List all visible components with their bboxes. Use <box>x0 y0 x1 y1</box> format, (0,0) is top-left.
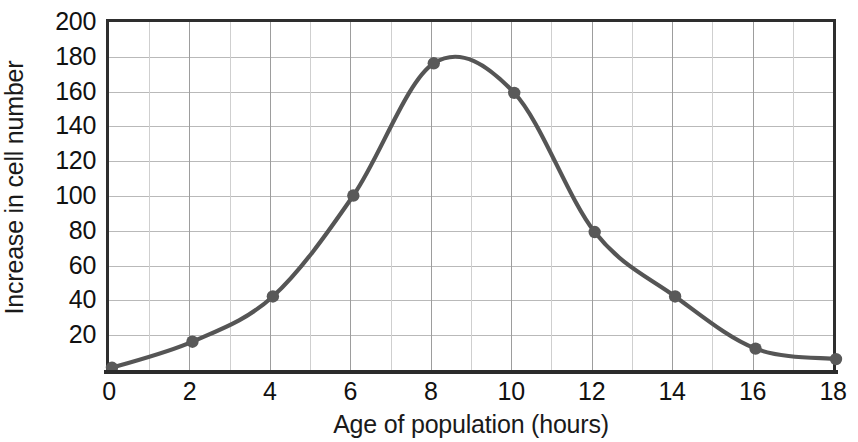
data-point-marker <box>669 290 681 302</box>
data-series-line <box>109 22 833 370</box>
x-axis-title: Age of population (hours) <box>106 410 836 439</box>
chart-figure: Increase in cell number 2040608010012014… <box>0 0 858 442</box>
y-axis-title: Increase in cell number <box>0 0 30 375</box>
x-axis-tick-label: 10 <box>498 376 525 406</box>
x-axis-tick-label: 14 <box>659 376 686 406</box>
x-axis-tick-label: 6 <box>344 376 358 406</box>
x-axis-tick-label: 8 <box>424 376 438 406</box>
series-line <box>112 57 836 368</box>
y-axis-tick-label: 200 <box>55 9 96 34</box>
x-axis-tick-label: 0 <box>102 376 116 406</box>
y-axis-tick-label: 100 <box>55 183 96 208</box>
y-axis-tick-label: 40 <box>69 287 96 312</box>
data-point-marker <box>267 290 279 302</box>
data-point-marker <box>588 226 600 238</box>
data-point-marker <box>508 87 520 99</box>
x-axis-baseline <box>104 370 838 374</box>
x-axis-tick-label: 18 <box>819 376 846 406</box>
data-point-marker <box>186 335 198 347</box>
y-axis-tick-label: 60 <box>69 253 96 278</box>
y-axis-tick-label: 80 <box>69 218 96 243</box>
data-point-marker <box>830 353 842 365</box>
y-axis-tick-label: 180 <box>55 44 96 69</box>
plot-area <box>106 19 836 373</box>
data-point-marker <box>749 342 761 354</box>
y-axis-title-text: Increase in cell number <box>1 61 30 315</box>
y-axis-tick-label: 120 <box>55 148 96 173</box>
y-axis-tick-label: 160 <box>55 79 96 104</box>
y-axis-tick-label: 20 <box>69 322 96 347</box>
x-axis-tick-label: 2 <box>183 376 197 406</box>
x-axis-tick-label: 12 <box>578 376 605 406</box>
x-axis-tick-label: 4 <box>263 376 277 406</box>
data-point-marker <box>428 57 440 69</box>
x-axis-tick-labels: 024681012141618 <box>0 376 858 410</box>
y-axis-tick-label: 140 <box>55 113 96 138</box>
x-axis-tick-label: 16 <box>739 376 766 406</box>
data-point-marker <box>347 189 359 201</box>
